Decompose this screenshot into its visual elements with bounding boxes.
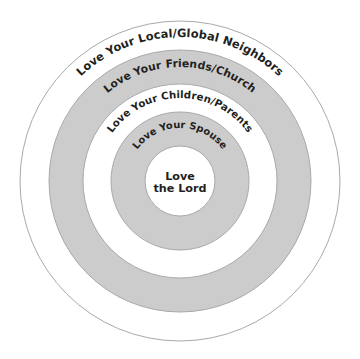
circles-of-love-diagram: Love Your Local/Global Neighbors Love Yo…: [0, 0, 360, 359]
center-label-line-2: the Lord: [153, 182, 206, 195]
concentric-circles-svg: Love Your Local/Global Neighbors Love Yo…: [0, 0, 360, 359]
